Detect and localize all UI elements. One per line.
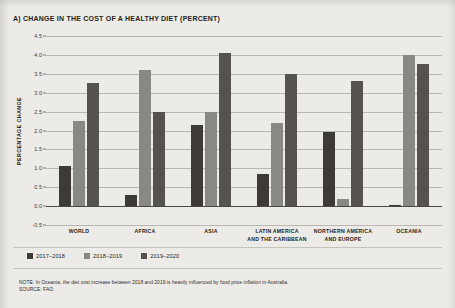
x-axis-category-label: WORLD (46, 228, 112, 236)
bar-slot (389, 36, 401, 225)
bar (271, 123, 283, 206)
bar-slot (285, 36, 297, 225)
bar-slot (351, 36, 363, 225)
bar-slot (337, 36, 349, 225)
bar-slot (257, 36, 269, 225)
legend-divider-bottom (13, 268, 442, 269)
x-axis-category-label: AFRICA (112, 228, 178, 236)
bar (139, 70, 151, 206)
bar (125, 195, 137, 206)
footnote-source: SOURCE: FAO. (19, 287, 444, 294)
legend-swatch-icon (141, 253, 147, 259)
legend-divider-top (13, 247, 442, 248)
bar-slot (153, 36, 165, 225)
bar-slot (73, 36, 85, 225)
bar (153, 112, 165, 207)
legend-label: 2019–2020 (150, 253, 179, 259)
bar-slot (205, 36, 217, 225)
bar-slot (191, 36, 203, 225)
bar (285, 74, 297, 206)
y-axis-title-label: PERCENTAGE CHANGE (16, 97, 22, 165)
bar-slot (59, 36, 71, 225)
x-axis-category-label: LATIN AMERICAAND THE CARIBBEAN (244, 228, 310, 243)
bar (191, 125, 203, 206)
y-axis-tick-label: 2.0 (34, 128, 42, 134)
y-axis-tick-label: 4.5 (34, 33, 42, 39)
bar-group (310, 36, 376, 225)
bar (87, 83, 99, 206)
figure-page: A) CHANGE IN THE COST OF A HEALTHY DIET … (0, 0, 455, 308)
bar-slot (219, 36, 231, 225)
bar (219, 53, 231, 206)
bar (59, 166, 71, 206)
y-axis-tick-label: 3.0 (34, 90, 42, 96)
bar (417, 64, 429, 206)
x-axis-category-label: NORTHERN AMERICAAND EUROPE (310, 228, 376, 243)
bar (351, 81, 363, 206)
bar-group (178, 36, 244, 225)
y-axis-tick-label: 1.5 (34, 146, 42, 152)
plot-area: 4.54.03.53.02.52.01.51.00.50.0-0.5 (46, 36, 442, 225)
legend-label: 2018–2019 (93, 253, 122, 259)
bar (205, 112, 217, 207)
legend-swatch-icon (27, 253, 33, 259)
bar-slot (87, 36, 99, 225)
bar-slot (271, 36, 283, 225)
bar (403, 55, 415, 206)
bar (73, 121, 85, 206)
bar-slot (323, 36, 335, 225)
y-axis-tick-label: 4.0 (34, 52, 42, 58)
bar (389, 205, 401, 206)
bar-group (46, 36, 112, 225)
bar-group (244, 36, 310, 225)
bar-slot (403, 36, 415, 225)
y-axis-tick-label: 0.5 (34, 184, 42, 190)
y-axis-tick-label: 0.0 (34, 203, 42, 209)
x-axis-category-label: ASIA (178, 228, 244, 236)
bar-slot (125, 36, 137, 225)
legend-item: 2018–2019 (84, 253, 122, 259)
bar-slot (139, 36, 151, 225)
footnote-note: NOTE: In Oceania, the diet cost increase… (19, 280, 444, 287)
y-axis-tick-label: 2.5 (34, 109, 42, 115)
legend: 2017–20182018–20192019–2020 (27, 253, 198, 259)
legend-swatch-icon (84, 253, 90, 259)
bar (257, 174, 269, 206)
x-axis-labels: WORLDAFRICAASIALATIN AMERICAAND THE CARI… (46, 228, 442, 252)
bar-group (376, 36, 442, 225)
footnotes: NOTE: In Oceania, the diet cost increase… (19, 280, 444, 293)
y-axis-tick-label: 3.5 (34, 71, 42, 77)
y-axis-tick-label: 1.0 (34, 165, 42, 171)
y-axis-tick-label: -0.5 (32, 222, 42, 228)
bar (337, 199, 349, 207)
y-axis-title: PERCENTAGE CHANGE (14, 36, 24, 225)
bar-group (112, 36, 178, 225)
x-axis-category-label: OCEANIA (376, 228, 442, 236)
legend-item: 2019–2020 (141, 253, 179, 259)
legend-label: 2017–2018 (36, 253, 65, 259)
bar (323, 132, 335, 206)
legend-item: 2017–2018 (27, 253, 65, 259)
bar-slot (417, 36, 429, 225)
gridline (46, 225, 442, 226)
page-title: A) CHANGE IN THE COST OF A HEALTHY DIET … (13, 15, 220, 22)
